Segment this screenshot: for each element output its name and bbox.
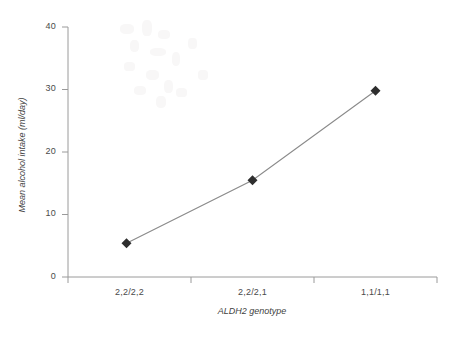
y-axis-ticks bbox=[62, 27, 68, 277]
chart-figure: 40 30 20 10 0 2,2/2,2 2,2/2,1 1,1/1,1 Me… bbox=[0, 0, 461, 340]
x-axis-ticks bbox=[68, 277, 437, 283]
y-tick-label-0: 0 bbox=[30, 271, 56, 281]
y-tick-label-30: 30 bbox=[30, 83, 56, 93]
x-axis-title: ALDH2 genotype bbox=[172, 306, 332, 316]
series-markers bbox=[122, 86, 381, 249]
y-tick-label-20: 20 bbox=[30, 146, 56, 156]
series-line bbox=[127, 91, 376, 244]
x-tick-label-0: 2,2/2,2 bbox=[68, 287, 191, 297]
data-point-marker bbox=[371, 86, 381, 96]
data-point-marker bbox=[122, 238, 132, 248]
x-tick-label-2: 1,1/1,1 bbox=[314, 287, 437, 297]
y-axis-title: Mean alcohol intake (ml/day) bbox=[17, 75, 27, 235]
data-point-marker bbox=[248, 175, 258, 185]
y-tick-label-10: 10 bbox=[30, 208, 56, 218]
y-tick-label-40: 40 bbox=[30, 21, 56, 31]
x-tick-label-1: 2,2/2,1 bbox=[191, 287, 314, 297]
